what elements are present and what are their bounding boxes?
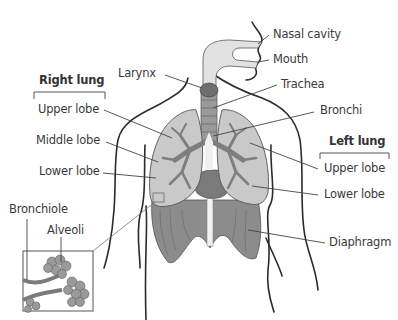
label-bronchiole: Bronchiole	[9, 204, 68, 216]
anatomy-illustration	[0, 0, 398, 320]
respiratory-diagram: Nasal cavity Mouth Larynx Trachea Bronch…	[0, 0, 398, 320]
label-right-middle-lobe: Middle lobe	[36, 135, 100, 147]
label-left-lower-lobe: Lower lobe	[324, 189, 385, 201]
larynx-shape	[200, 83, 218, 97]
label-larynx: Larynx	[118, 68, 156, 80]
right-lung-heading: Right lung	[39, 75, 104, 87]
label-nasal-cavity: Nasal cavity	[273, 29, 341, 41]
label-left-upper-lobe: Upper lobe	[324, 163, 385, 175]
label-diaphragm: Diaphragm	[329, 237, 391, 249]
label-right-lower-lobe: Lower lobe	[39, 166, 100, 178]
diaphragm-shape	[152, 198, 261, 263]
label-right-upper-lobe: Upper lobe	[38, 104, 99, 116]
label-alveoli: Alveoli	[47, 225, 84, 237]
label-bronchi: Bronchi	[320, 105, 362, 117]
nasal-cavity-shape	[203, 40, 262, 88]
alveoli-inset	[23, 202, 155, 313]
label-trachea: Trachea	[281, 79, 324, 91]
label-mouth: Mouth	[273, 54, 308, 66]
left-lung-heading: Left lung	[329, 136, 385, 148]
